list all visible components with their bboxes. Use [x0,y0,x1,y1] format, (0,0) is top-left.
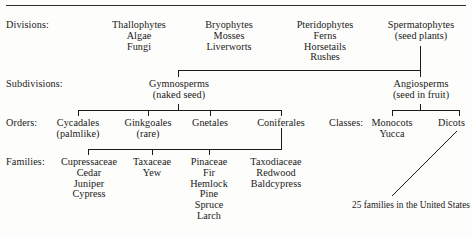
family-taxodiaceae: Taxodiaceae Redwood Baldcypress [240,157,312,189]
family-taxodiaceae-member-0: Redwood [240,168,312,179]
taxonomy-diagram: Divisions: Subdivisions: Orders: Familie… [0,0,472,237]
family-taxaceae-member-0: Yew [125,168,179,179]
family-pinaceae-member-4: Larch [183,211,235,222]
family-cupressaceae: Cupressaceae Cedar Juniper Cypress [55,157,123,200]
family-cupressaceae-member-2: Cypress [55,189,123,200]
family-cupressaceae-member-0: Cedar [55,168,123,179]
annotation-line-1: 25 families in the [352,200,417,210]
family-pinaceae: Pinaceae Fir Hemlock Pine Spruce Larch [183,157,235,222]
family-taxodiaceae-member-1: Baldcypress [240,179,312,190]
annotation-line-2: United States [420,200,470,210]
family-pinaceae-member-0: Fir [183,168,235,179]
annotation-us-families: 25 families in the United States [352,200,448,211]
family-taxaceae: Taxaceae Yew [125,157,179,179]
